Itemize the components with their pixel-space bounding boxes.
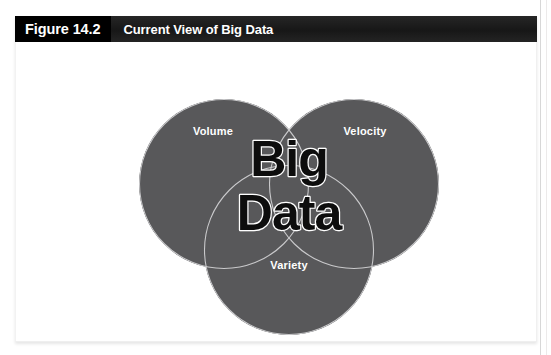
venn-label-volume: Volume — [193, 125, 233, 137]
figure-header-bar: Figure 14.2 Current View of Big Data — [15, 16, 537, 42]
venn-diagram-svg: Volume Velocity Variety Big Data — [16, 42, 538, 342]
venn-label-variety: Variety — [270, 259, 308, 271]
venn-center-text-line-1: Big — [250, 131, 328, 187]
venn-center-text-line-2: Data — [237, 185, 344, 241]
venn-diagram: Volume Velocity Variety Big Data — [16, 42, 538, 342]
figure-body: Volume Velocity Variety Big Data — [15, 42, 537, 342]
figure-page: Figure 14.2 Current View of Big Data — [0, 0, 551, 355]
venn-label-velocity: Velocity — [343, 125, 387, 137]
figure-title: Current View of Big Data — [111, 16, 537, 42]
page-margin-rule — [540, 0, 541, 355]
figure-number-label: Figure 14.2 — [15, 16, 111, 42]
page-margin-rule-secondary — [546, 0, 547, 355]
figure-card: Figure 14.2 Current View of Big Data — [15, 16, 537, 342]
